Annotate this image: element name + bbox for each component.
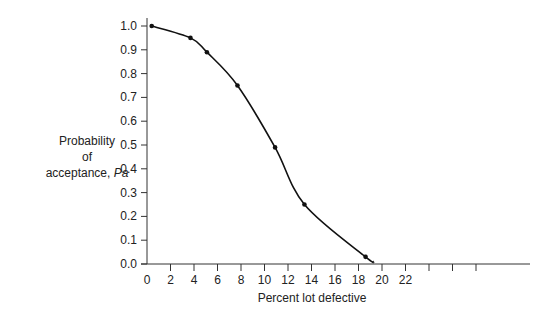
y-axis-title-line3: acceptance, Pa	[22, 165, 152, 181]
y-tick-label: 0.1	[120, 233, 137, 247]
x-tick-label: 18	[352, 273, 366, 287]
data-point	[273, 145, 278, 150]
y-tick-label: 0.8	[120, 67, 137, 81]
y-axis-title: Probability of acceptance, Pa	[22, 133, 152, 181]
y-tick-label: 0.0	[120, 257, 137, 271]
x-axis-title: Percent lot defective	[258, 291, 367, 305]
data-point	[188, 36, 193, 41]
x-tick-label: 22	[399, 273, 413, 287]
x-tick-label: 12	[281, 273, 295, 287]
x-tick-label: 16	[328, 273, 342, 287]
oc-curve	[152, 26, 374, 263]
data-point	[205, 50, 210, 55]
x-tick-label: 0	[144, 273, 151, 287]
data-point	[235, 83, 240, 88]
data-point	[149, 24, 154, 29]
x-tick-label: 20	[375, 273, 389, 287]
x-tick-label: 10	[258, 273, 272, 287]
y-tick-label: 0.3	[120, 186, 137, 200]
x-tick-label: 6	[214, 273, 221, 287]
x-tick-label: 2	[167, 273, 174, 287]
y-tick-label: 0.6	[120, 114, 137, 128]
x-tick-label: 8	[238, 273, 245, 287]
x-tick-label: 14	[305, 273, 319, 287]
y-axis-title-line2: of	[22, 149, 152, 165]
y-tick-label: 1.0	[120, 19, 137, 33]
pa-symbol: Pa	[114, 166, 129, 180]
y-tick-label: 0.2	[120, 209, 137, 223]
y-axis-title-line1: Probability	[22, 133, 152, 149]
data-point	[363, 255, 368, 260]
data-point	[302, 202, 307, 207]
x-tick-label: 4	[191, 273, 198, 287]
y-tick-label: 0.9	[120, 43, 137, 57]
y-tick-label: 0.7	[120, 90, 137, 104]
